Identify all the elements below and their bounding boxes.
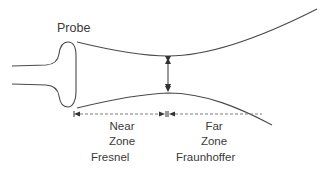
fresnel-label: Fresnel [91,151,129,164]
arrow-down-icon [165,86,171,92]
near-zone-line2: Zone [100,135,144,148]
far-zone-line2: Zone [192,135,236,148]
zone-boundaries [74,111,262,117]
arrow-left-icon [169,112,175,117]
beam-envelope [77,9,317,125]
probe-shape [12,42,76,107]
probe-label: Probe [57,22,90,35]
far-zone-line1: Far [192,120,236,133]
far-zone-label: Far Zone [192,120,236,148]
near-zone-label: Near Zone [100,120,144,148]
fraunhoffer-label: Fraunhoffer [176,151,235,164]
near-zone-line1: Near [100,120,144,133]
arrow-right-icon [159,112,165,117]
arrow-up-icon [165,58,171,64]
arrow-left-icon [74,112,80,117]
beam-upper-edge [77,9,317,56]
beam-diagram [0,0,327,178]
